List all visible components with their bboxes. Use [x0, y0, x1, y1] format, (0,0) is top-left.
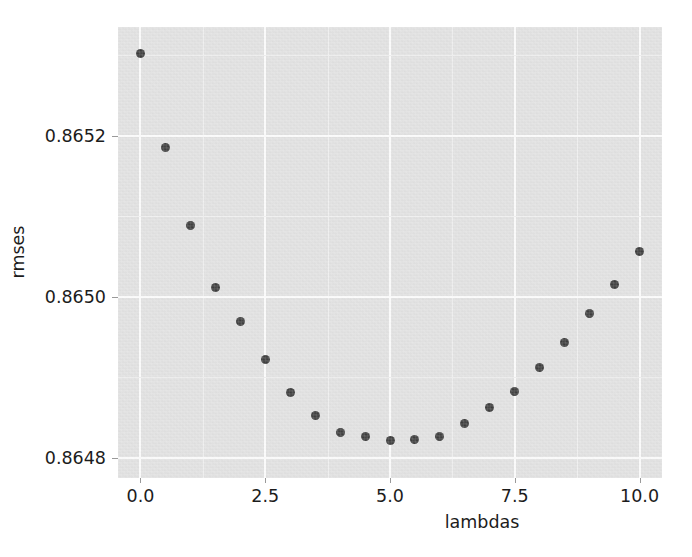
grid-line-horizontal-major	[118, 296, 662, 298]
y-tick-label: 0.8648	[0, 448, 106, 468]
grid-line-vertical-major	[514, 27, 516, 478]
x-tick-label: 10.0	[620, 486, 659, 506]
data-point	[460, 419, 469, 428]
y-axis-label: rmses	[8, 226, 28, 279]
grid-line-vertical-minor	[577, 27, 578, 478]
grid-line-vertical-major	[264, 27, 266, 478]
x-tick-label: 7.5	[501, 486, 529, 506]
data-point	[161, 143, 170, 152]
grid-line-vertical-minor	[328, 27, 329, 478]
y-tick-mark	[112, 297, 118, 298]
data-point	[386, 436, 395, 445]
grid-line-horizontal-minor	[118, 55, 662, 56]
x-tick-label: 0.0	[127, 486, 155, 506]
grid-line-horizontal-minor	[118, 216, 662, 217]
grid-line-vertical-minor	[452, 27, 453, 478]
grid-line-vertical-minor	[203, 27, 204, 478]
data-point	[485, 403, 494, 412]
data-point	[585, 309, 594, 318]
x-tick-mark	[640, 478, 641, 483]
grid-line-vertical-major	[139, 27, 141, 478]
y-tick-label: 0.8650	[0, 287, 106, 307]
x-tick-mark	[140, 478, 141, 483]
grid-line-vertical-major	[389, 27, 391, 478]
plot-area	[118, 27, 662, 478]
x-tick-label: 2.5	[251, 486, 279, 506]
grid-line-horizontal-major	[118, 135, 662, 137]
x-tick-mark	[265, 478, 266, 483]
y-tick-mark	[112, 458, 118, 459]
data-point	[336, 428, 345, 437]
data-point	[560, 338, 569, 347]
x-axis-label: lambdas	[0, 512, 692, 532]
x-tick-mark	[390, 478, 391, 483]
data-point	[236, 317, 245, 326]
y-tick-label: 0.8652	[0, 126, 106, 146]
y-tick-mark	[112, 136, 118, 137]
grid-line-horizontal-minor	[118, 377, 662, 378]
data-point	[435, 432, 444, 441]
data-point	[410, 435, 419, 444]
x-tick-label: 5.0	[376, 486, 404, 506]
data-point	[211, 283, 220, 292]
data-point	[635, 247, 644, 256]
data-point	[610, 280, 619, 289]
grid-line-horizontal-major	[118, 457, 662, 459]
data-point	[361, 432, 370, 441]
x-axis-label-text: lambdas	[445, 512, 520, 532]
x-tick-mark	[515, 478, 516, 483]
data-point	[261, 355, 270, 364]
data-point	[286, 388, 295, 397]
data-point	[535, 363, 544, 372]
data-point	[510, 387, 519, 396]
figure-canvas: 0.02.55.07.510.0 0.86480.86500.8652 lamb…	[0, 0, 692, 557]
data-point	[136, 49, 145, 58]
data-point	[311, 411, 320, 420]
data-point	[186, 221, 195, 230]
